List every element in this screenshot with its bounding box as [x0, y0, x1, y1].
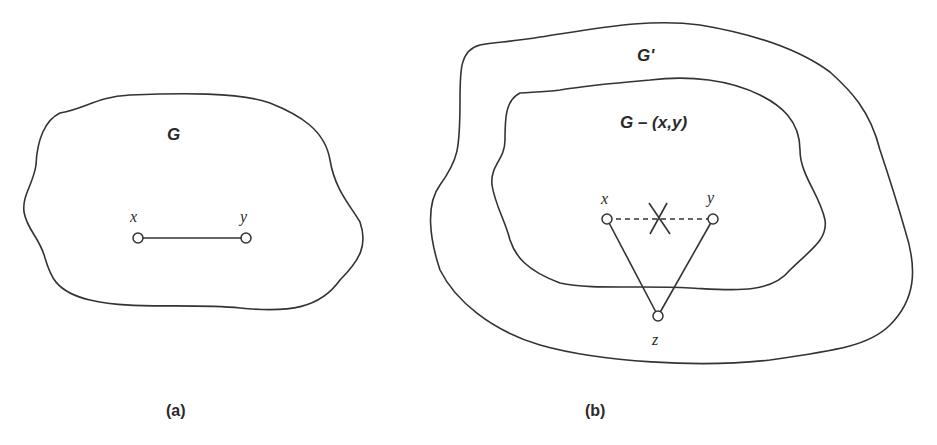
edge-y-z	[658, 219, 713, 316]
node-y-label: y	[705, 189, 715, 207]
region-g-minus-xy-boundary	[492, 78, 826, 290]
node-z	[653, 311, 663, 321]
node-x	[133, 233, 143, 243]
region-g-boundary	[24, 94, 363, 310]
node-x	[602, 214, 612, 224]
node-y	[241, 233, 251, 243]
figure-canvas: G x y (a) G' G – (x,y) x y z (b)	[0, 0, 937, 445]
panel-b: G' G – (x,y) x y z (b)	[431, 23, 913, 419]
node-z-label: z	[651, 331, 659, 348]
region-gprime-boundary	[431, 23, 913, 364]
region-g-minus-xy-label: G – (x,y)	[620, 113, 687, 132]
node-y	[708, 214, 718, 224]
panel-a: G x y (a)	[24, 94, 363, 419]
region-g-label: G	[167, 125, 180, 144]
node-y-label: y	[238, 208, 248, 226]
caption-b: (b)	[585, 402, 605, 419]
region-gprime-label: G'	[637, 46, 655, 65]
node-x-label: x	[600, 190, 608, 207]
node-x-label: x	[129, 208, 137, 225]
caption-a: (a)	[166, 402, 186, 419]
